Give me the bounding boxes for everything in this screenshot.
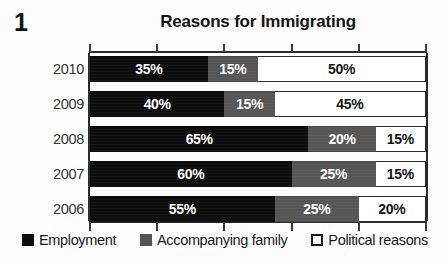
legend-item-political: Political reasons <box>311 232 428 248</box>
legend-label-family: Accompanying family <box>157 232 287 248</box>
axis-tick-bottom-100 <box>425 221 427 231</box>
bar-row: 200865%20%15% <box>90 126 426 152</box>
year-label-2008: 2008 <box>38 126 84 152</box>
year-label-2010: 2010 <box>38 56 84 82</box>
family-swatch-icon <box>140 234 152 246</box>
employment-swatch-icon <box>22 234 34 246</box>
legend-item-employment: Employment <box>22 232 116 248</box>
political-swatch-icon <box>311 234 323 246</box>
bar-segment-family: 25% <box>275 196 359 222</box>
bar-segment-political: 20% <box>359 196 426 222</box>
axis-tick-bottom-80 <box>358 221 360 231</box>
axis-tick-bottom-60 <box>291 221 293 231</box>
year-label-2009: 2009 <box>38 91 84 117</box>
axis-tick-top-20 <box>156 44 158 53</box>
bar-segment-employment: 35% <box>90 56 208 82</box>
year-label-2007: 2007 <box>38 161 84 187</box>
figure-container: 1 Reasons for Immigrating 201035%15%50%2… <box>0 0 445 265</box>
axis-tick-top-80 <box>358 44 360 53</box>
axis-tick-bottom-40 <box>223 221 225 231</box>
figure-number: 1 <box>14 10 27 35</box>
bar-segment-political: 15% <box>376 126 426 152</box>
axis-tick-bottom-0 <box>89 221 91 231</box>
legend-item-family: Accompanying family <box>140 232 287 248</box>
bar-segment-family: 15% <box>224 91 274 117</box>
bar-row: 201035%15%50% <box>90 56 426 82</box>
bar-row: 200655%25%20% <box>90 196 426 222</box>
bar-segment-family: 15% <box>208 56 258 82</box>
axis-tick-top-0 <box>89 44 91 53</box>
chart-legend: Employment Accompanying family Political… <box>22 232 428 248</box>
bar-segment-employment: 55% <box>90 196 275 222</box>
axis-line-top <box>90 51 426 53</box>
legend-label-employment: Employment <box>39 232 116 248</box>
bar-segment-family: 25% <box>292 161 376 187</box>
bar-segment-political: 50% <box>258 56 426 82</box>
legend-label-political: Political reasons <box>328 232 428 248</box>
bar-segment-political: 15% <box>376 161 426 187</box>
bar-segment-political: 45% <box>275 91 426 117</box>
axis-tick-top-40 <box>223 44 225 53</box>
chart-title: Reasons for Immigrating <box>88 12 428 32</box>
bar-segment-employment: 40% <box>90 91 224 117</box>
bar-segment-employment: 65% <box>90 126 308 152</box>
plot-area: 201035%15%50%200940%15%45%200865%20%15%2… <box>88 53 428 221</box>
bar-segment-employment: 60% <box>90 161 292 187</box>
axis-tick-top-100 <box>425 44 427 53</box>
bar-segment-family: 20% <box>308 126 375 152</box>
bar-row: 200940%15%45% <box>90 91 426 117</box>
bar-row: 200760%25%15% <box>90 161 426 187</box>
axis-tick-bottom-20 <box>156 221 158 231</box>
year-label-2006: 2006 <box>38 196 84 222</box>
axis-tick-top-60 <box>291 44 293 53</box>
